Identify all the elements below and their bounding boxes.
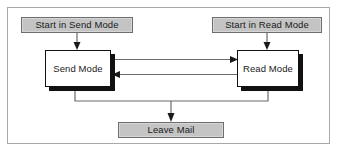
node-read-mode-label: Read Mode	[243, 64, 293, 74]
node-leave-mail[interactable]: Leave Mail	[118, 122, 224, 138]
node-start-in-read-mode-label: Start in Read Mode	[225, 20, 309, 30]
node-start-in-send-mode[interactable]: Start in Send Mode	[21, 17, 133, 33]
node-start-in-send-mode-label: Start in Send Mode	[35, 20, 118, 30]
node-start-in-read-mode[interactable]: Start in Read Mode	[212, 17, 322, 33]
figure-root: Start in Send Mode Start in Read Mode Se…	[0, 0, 339, 153]
node-read-mode[interactable]: Read Mode	[237, 50, 299, 87]
node-leave-mail-label: Leave Mail	[148, 125, 195, 135]
node-send-mode-label: Send Mode	[53, 64, 103, 74]
node-send-mode[interactable]: Send Mode	[45, 50, 111, 87]
